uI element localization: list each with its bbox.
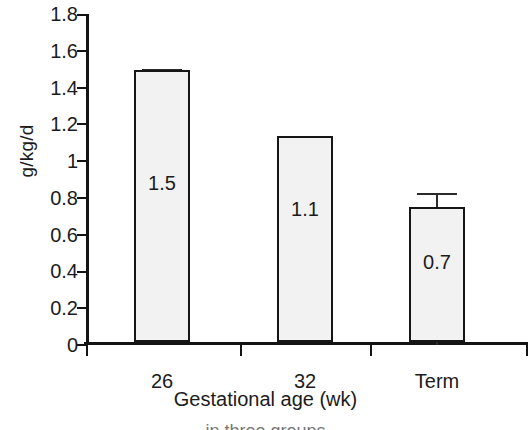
y-tick-label-1-4: 1.4 [14, 78, 78, 98]
y-tick-label-1-8: 1.8 [14, 4, 78, 24]
plot-area: 1.5 1.1 0.7 26 32 Term [86, 14, 528, 345]
bar-value-term: 0.7 [411, 251, 463, 274]
y-tick-mark-0-2 [77, 307, 86, 309]
x-axis-title: Gestational age (wk) [0, 388, 531, 411]
y-tick-label-1-6: 1.6 [14, 41, 78, 61]
bar-32[interactable]: 1.1 [277, 136, 333, 342]
y-axis-line [86, 14, 89, 345]
x-tick-mark-right [526, 345, 528, 356]
y-tick-mark-0-4 [77, 271, 86, 273]
bar-term[interactable]: 0.7 [409, 207, 465, 342]
x-tick-mark-2 [370, 345, 372, 356]
y-tick-mark-1 [77, 160, 86, 162]
y-tick-mark-0-6 [77, 234, 86, 236]
y-tick-label-0-6: 0.6 [14, 225, 78, 245]
error-bar-cap-term [417, 193, 457, 195]
y-tick-label-0-4: 0.4 [14, 261, 78, 281]
cut-off-caption: in three groups [0, 421, 531, 430]
x-tick-mark-1 [240, 345, 242, 356]
y-tick-mark-1-8 [77, 14, 86, 16]
y-axis-tick-labels: 0 0.2 0.4 0.6 0.8 1 1.2 1.4 1.6 1.8 [8, 0, 78, 430]
bar-26[interactable]: 1.5 [134, 70, 190, 342]
x-axis-line [84, 342, 528, 345]
y-tick-mark-0 [77, 344, 86, 346]
y-tick-label-1-2: 1.2 [14, 114, 78, 134]
y-tick-label-0: 0 [14, 335, 78, 355]
y-tick-mark-1-6 [77, 50, 86, 52]
y-tick-mark-1-2 [77, 123, 86, 125]
x-tick-mark-left [86, 345, 88, 356]
bar-chart-figure: g/kg/d 0 0.2 0.4 0.6 0.8 1 1.2 1.4 1.6 1… [0, 0, 531, 430]
bar-value-32: 1.1 [279, 198, 331, 221]
bar-value-26: 1.5 [136, 172, 188, 195]
y-tick-label-0-2: 0.2 [14, 298, 78, 318]
y-tick-mark-0-8 [77, 197, 86, 199]
y-tick-label-0-8: 0.8 [14, 188, 78, 208]
y-tick-label-1: 1 [14, 151, 78, 171]
y-tick-mark-1-4 [77, 87, 86, 89]
